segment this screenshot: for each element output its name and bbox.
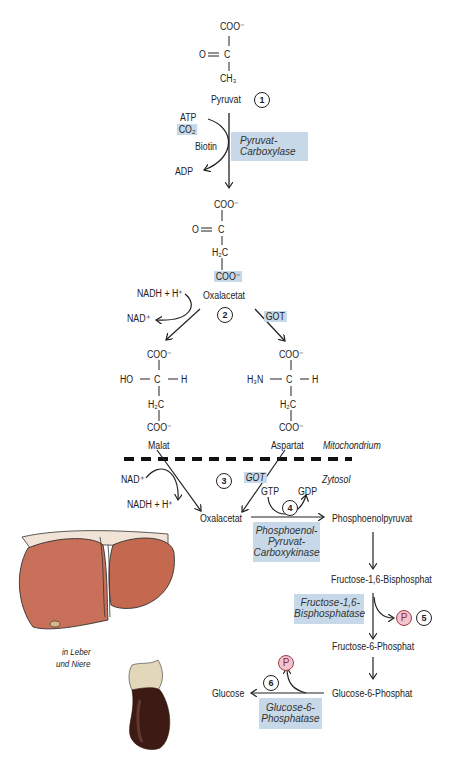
glucose-label: Glucose <box>212 688 244 699</box>
pyruvat-c: C <box>224 49 230 60</box>
step-1-badge: 1 <box>254 92 270 108</box>
enzyme-line: Phosphoenol- <box>253 525 320 536</box>
gluconeogenesis-diagram: COO⁻ O C CH₃ Pyruvat 1 ATP CO₂ Biotin AD… <box>0 0 451 762</box>
phosphate-icon: P <box>396 610 412 626</box>
malat-c: C <box>154 374 160 385</box>
step-5-badge: 5 <box>416 610 432 626</box>
kidney-illustration <box>129 660 170 750</box>
asp-ch2: H₂C <box>280 399 296 410</box>
step-2-badge: 2 <box>217 307 233 323</box>
aspartat-label: Aspartat <box>271 440 304 451</box>
liver-illustration <box>19 531 174 629</box>
gdp-label: GDP <box>298 486 317 497</box>
co2-label: CO₂ <box>177 124 197 135</box>
asp-coo-top: COO⁻ <box>279 349 303 360</box>
step-3-badge: 3 <box>216 473 232 489</box>
oxa-o: O <box>192 224 199 235</box>
mitochondrium-label: Mitochondrium <box>323 440 381 451</box>
enzyme-line: Pyruvat- <box>240 135 308 146</box>
asp-h3n: H₃N <box>247 374 263 385</box>
pyruvat-ch3: CH₃ <box>220 73 236 84</box>
asp-coo-bottom: COO⁻ <box>279 422 303 433</box>
enzyme-line: Pyruvat- <box>253 536 320 547</box>
biotin-label: Biotin <box>195 141 217 152</box>
pyruvat-coo: COO⁻ <box>220 21 244 32</box>
enzyme-line: Carboxylase <box>240 146 308 157</box>
step-6-badge: 6 <box>263 675 279 691</box>
oxa-c: C <box>218 224 224 235</box>
malat-ho: HO <box>120 374 133 385</box>
organ-caption-line1: in Leber <box>62 647 91 658</box>
enzyme-pepck: Phosphoenol- Pyruvat- Carboxykinase <box>253 522 320 562</box>
enzyme-line: Bisphosphatase <box>294 608 360 619</box>
enzyme-got-mito: GOT <box>264 311 287 322</box>
pyruvat-o: O <box>199 49 206 60</box>
gtp-label: GTP <box>261 486 279 497</box>
enzyme-pyruvat-carboxylase: Pyruvat- Carboxylase <box>231 132 308 161</box>
oxa-ch2: H₂C <box>212 247 228 258</box>
enzyme-line: Carboxykinase <box>253 547 320 558</box>
nad-in-label: NAD⁺ <box>121 474 144 485</box>
malat-ch2: H₂C <box>148 399 164 410</box>
enzyme-line: Fructose-1,6- <box>294 597 360 608</box>
enzyme-g6pase: Glucose-6- Phosphatase <box>259 698 322 729</box>
step-4-badge: 4 <box>282 500 298 516</box>
oxa-coo-top: COO⁻ <box>214 199 238 210</box>
nadh-in-label: NADH + H⁺ <box>137 288 183 299</box>
malat-label: Malat <box>148 440 170 451</box>
g6p-label: Glucose-6-Phosphat <box>332 688 412 699</box>
phosphate-icon: P <box>278 655 294 671</box>
organ-caption-line2: und Niere <box>56 659 90 670</box>
pyruvat-label: Pyruvat <box>211 94 241 105</box>
malat-coo-top: COO⁻ <box>147 349 171 360</box>
nadh-out-label: NADH + H⁺ <box>127 499 173 510</box>
f6p-label: Fructose-6-Phosphat <box>332 641 414 652</box>
enzyme-line: Phosphatase <box>259 713 322 724</box>
enzyme-line: Glucose-6- <box>259 702 322 713</box>
enzyme-fbpase: Fructose-1,6- Bisphosphatase <box>294 594 364 624</box>
malat-h: H <box>181 374 187 385</box>
nad-out-label: NAD⁺ <box>127 313 150 324</box>
pep-label: Phosphoenolpyruvat <box>332 513 412 524</box>
enzyme-got-cyto: GOT <box>244 472 267 483</box>
f16bp-label: Fructose-1,6-Bisphosphat <box>331 574 432 585</box>
atp-label: ATP <box>180 112 196 123</box>
oxalacetat-cyto-label: Oxalacetat <box>200 513 242 524</box>
asp-h: H <box>312 374 318 385</box>
adp-label: ADP <box>175 166 193 177</box>
oxalacetat-mito-label: Oxalacetat <box>203 290 245 301</box>
oxa-coo-bottom: COO⁻ <box>214 271 242 282</box>
zytosol-label: Zytosol <box>322 474 350 485</box>
asp-c: C <box>286 374 292 385</box>
malat-coo-bottom: COO⁻ <box>147 422 171 433</box>
